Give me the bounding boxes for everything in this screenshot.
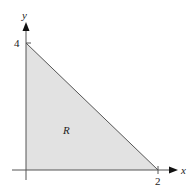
y-axis-arrow-icon [23, 22, 30, 31]
x-tick-label: 2 [155, 175, 161, 187]
x-axis-arrow-icon [169, 167, 178, 174]
x-axis-label: x [180, 164, 186, 176]
region-label: R [62, 124, 70, 136]
region-diagram: y 4 x 2 R [0, 0, 193, 193]
y-axis-label: y [21, 9, 27, 21]
y-tick-label: 4 [14, 37, 20, 49]
